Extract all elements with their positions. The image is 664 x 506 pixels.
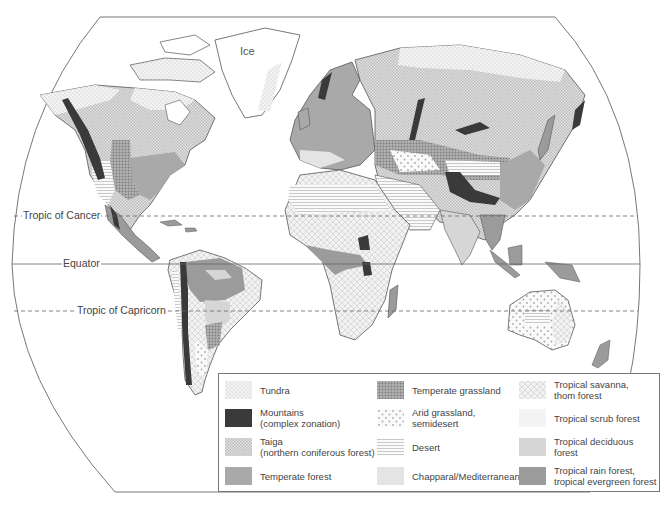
tropical-rainforest-swatch bbox=[519, 467, 546, 485]
tropic-of-capricorn-label: Tropic of Capricorn bbox=[76, 304, 167, 316]
taiga-swatch bbox=[225, 438, 252, 456]
legend-sublabel: (complex zonation) bbox=[260, 418, 340, 429]
temperate-forest-swatch bbox=[225, 467, 252, 485]
equator-label: Equator bbox=[62, 257, 101, 269]
desert-swatch bbox=[377, 438, 404, 456]
arid-grassland-swatch bbox=[377, 409, 404, 427]
legend-item-temperate-forest: Temperate forest bbox=[225, 463, 331, 489]
legend-label: Arid grassland, bbox=[412, 407, 475, 418]
tundra-swatch bbox=[225, 381, 252, 399]
legend-item-mountains: Mountains(complex zonation) bbox=[225, 405, 340, 431]
legend-label: Tropical deciduous forest bbox=[554, 436, 659, 458]
legend: Tundra Mountains(complex zonation) Taiga… bbox=[218, 373, 660, 492]
ice-label: Ice bbox=[240, 45, 255, 57]
legend-label: Desert bbox=[412, 442, 440, 453]
legend-sublabel: semidesert bbox=[412, 418, 475, 429]
chaparral-swatch bbox=[377, 467, 404, 485]
legend-sublabel: thom forest bbox=[554, 390, 629, 401]
legend-item-tropical-scrub: Tropical scrub forest bbox=[519, 405, 640, 431]
legend-item-chaparral: Chapparal/Mediterranean bbox=[377, 463, 520, 489]
tropical-savanna-swatch bbox=[519, 381, 546, 399]
legend-sublabel: tropical evergreen forest bbox=[554, 476, 656, 487]
legend-item-tropical-deciduous: Tropical deciduous forest bbox=[519, 434, 659, 460]
tropic-of-cancer-label: Tropic of Cancer bbox=[22, 209, 101, 221]
legend-label: Tropical rain forest, bbox=[554, 465, 656, 476]
legend-item-tropical-rainforest: Tropical rain forest,tropical evergreen … bbox=[519, 463, 656, 489]
legend-label: Mountains bbox=[260, 407, 340, 418]
legend-item-tropical-savanna: Tropical savanna,thom forest bbox=[519, 377, 629, 403]
legend-sublabel: (northern coniferous forest) bbox=[260, 447, 375, 458]
legend-item-tundra: Tundra bbox=[225, 377, 290, 403]
legend-label: Tropical scrub forest bbox=[554, 413, 640, 424]
tropical-deciduous-swatch bbox=[519, 438, 546, 456]
legend-label: Tundra bbox=[260, 385, 290, 396]
legend-label: Chapparal/Mediterranean bbox=[412, 471, 520, 482]
temperate-grassland-swatch bbox=[377, 381, 404, 399]
legend-label: Temperate grassland bbox=[412, 385, 501, 396]
legend-label: Taiga bbox=[260, 436, 375, 447]
legend-label: Temperate forest bbox=[260, 471, 331, 482]
mountains-swatch bbox=[225, 409, 252, 427]
legend-item-desert: Desert bbox=[377, 434, 440, 460]
legend-item-temperate-grassland: Temperate grassland bbox=[377, 377, 501, 403]
legend-item-arid-grassland: Arid grassland,semidesert bbox=[377, 405, 475, 431]
legend-label: Tropical savanna, bbox=[554, 379, 629, 390]
tropical-scrub-swatch bbox=[519, 409, 546, 427]
legend-item-taiga: Taiga(northern coniferous forest) bbox=[225, 434, 375, 460]
